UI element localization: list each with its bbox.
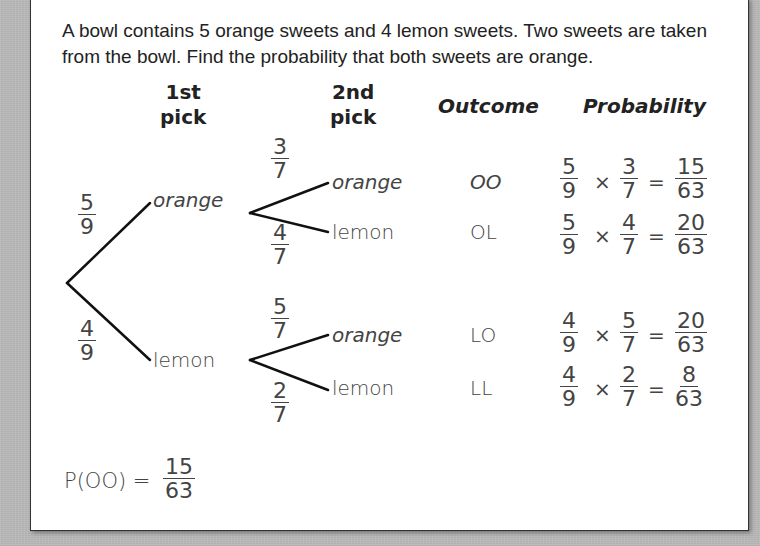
label-second-lemon-2: lemon: [332, 376, 394, 400]
prob-first-orange: 59: [78, 192, 96, 238]
label-first-orange: orange: [153, 188, 223, 212]
prob-first-lemon: 49: [78, 318, 96, 364]
answer-label: P(OO) =: [64, 469, 150, 493]
outcome-lo: LO: [470, 323, 496, 347]
answer-fraction: 1563: [163, 456, 195, 502]
label-second-orange-2: orange: [332, 323, 402, 347]
label-second-lemon-1: lemon: [332, 220, 394, 244]
prob-second-oo: 37: [271, 136, 289, 182]
tree-diagram-lines: [0, 0, 760, 546]
prob-second-ll: 27: [271, 380, 289, 426]
prob-second-ol: 47: [271, 222, 289, 268]
outcome-oo: OO: [470, 170, 501, 194]
label-second-orange-1: orange: [332, 170, 402, 194]
outcome-ll: LL: [470, 376, 492, 400]
prob-second-lo: 57: [271, 296, 289, 342]
outcome-ol: OL: [470, 220, 497, 244]
label-first-lemon: lemon: [153, 348, 215, 372]
